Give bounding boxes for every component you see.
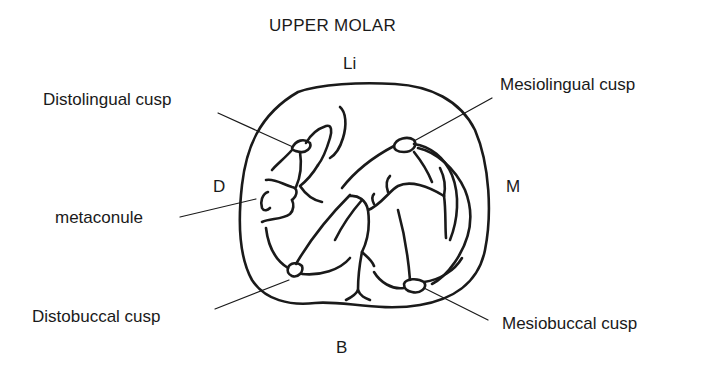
orientation-buccal: B — [336, 339, 347, 356]
label-metaconule: metaconule — [55, 209, 143, 226]
leader-distobuccal — [215, 280, 289, 309]
leader-distolingual — [218, 113, 293, 147]
diagram-title: UPPER MOLAR — [269, 17, 396, 34]
orientation-mesial: M — [506, 178, 520, 195]
leader-metaconule — [180, 199, 256, 217]
label-distolingual-cusp: Distolingual cusp — [43, 91, 172, 108]
orientation-distal: D — [213, 178, 225, 195]
label-distobuccal-cusp: Distobuccal cusp — [32, 308, 161, 325]
label-mesiobuccal-cusp: Mesiobuccal cusp — [502, 315, 637, 332]
orientation-lingual: Li — [343, 55, 356, 72]
metaconule-shape — [261, 192, 270, 210]
upper-molar-diagram: UPPER MOLAR Li B D M Distolingual cusp m… — [0, 0, 716, 370]
label-mesiolingual-cusp: Mesiolingual cusp — [500, 76, 635, 93]
crown-outline — [240, 83, 489, 307]
